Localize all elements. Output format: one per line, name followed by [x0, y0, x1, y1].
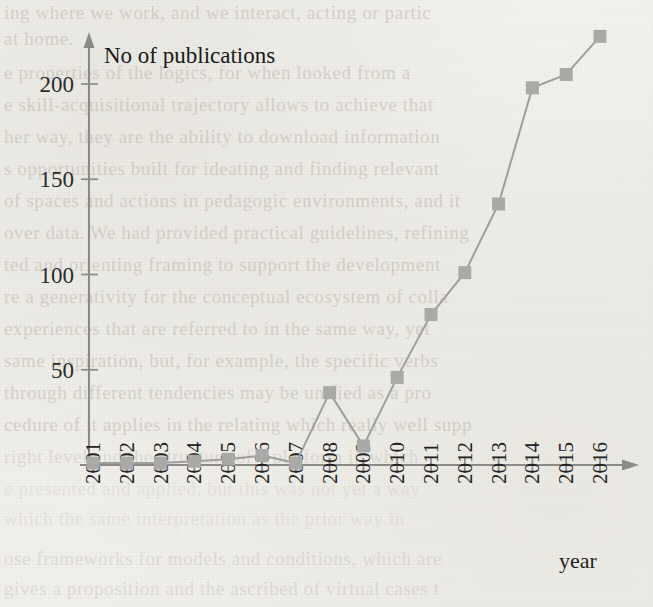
x-axis-tick-label: 2008: [318, 442, 342, 484]
x-axis-tick-label: 2016: [588, 442, 612, 484]
data-point-marker: [256, 449, 269, 462]
data-point-marker: [357, 439, 370, 452]
y-axis-title: No of publications: [104, 43, 275, 68]
data-point-marker: [188, 455, 201, 468]
data-point-marker: [526, 81, 539, 94]
y-axis-arrow-icon: [84, 32, 95, 48]
data-point-marker: [289, 457, 302, 470]
data-point-marker: [323, 386, 336, 399]
data-point-marker: [154, 457, 167, 470]
data-point-marker: [492, 198, 505, 211]
x-axis-tick-label: 2015: [554, 442, 578, 484]
data-point-marker: [120, 457, 133, 470]
x-axis-tick-label: 2014: [520, 442, 544, 485]
y-axis-tick-label: 50: [51, 358, 74, 383]
y-axis-tick-labels: 50100150200: [40, 72, 75, 383]
x-axis-tick-label: 2011: [419, 443, 443, 484]
scanned-page: ing where we work, and we interact, acti…: [0, 0, 653, 607]
data-point-marker: [458, 266, 471, 279]
series-line-publications: [93, 36, 600, 463]
x-axis-arrow-icon: [622, 460, 639, 471]
data-point-marker: [560, 68, 573, 81]
x-axis-tick-label: 2013: [487, 442, 511, 484]
x-axis-title: year: [559, 548, 598, 573]
y-axis-tick-label: 150: [40, 167, 75, 192]
y-axis-tick-label: 100: [40, 263, 75, 288]
data-point-marker: [391, 371, 404, 384]
data-point-marker: [222, 453, 235, 466]
y-axis: [84, 32, 95, 466]
publications-line-chart: 50100150200 2001200220032004200520062007…: [0, 0, 653, 607]
x-axis-tick-label: 2010: [385, 442, 409, 484]
x-axis-tick-label: 2012: [453, 442, 477, 484]
x-axis-tick-label: 2006: [250, 442, 274, 484]
data-point-marker: [87, 457, 100, 470]
series-markers: [87, 30, 607, 470]
y-axis-tick-label: 200: [40, 72, 75, 97]
data-point-marker: [425, 308, 438, 321]
data-point-marker: [594, 30, 607, 43]
